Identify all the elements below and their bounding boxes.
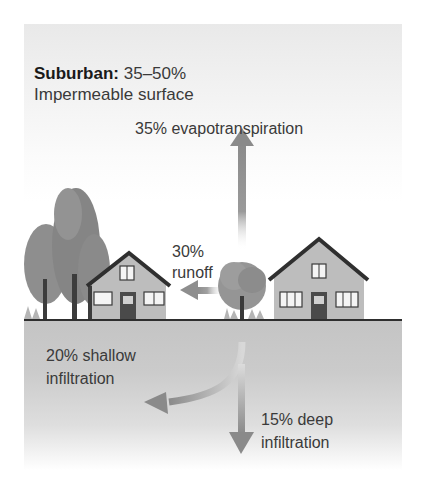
- tree-middle-icon: [218, 262, 266, 319]
- runoff-label: runoff: [172, 263, 213, 282]
- runoff-percent: 30%: [172, 242, 204, 261]
- ground-line: [24, 319, 402, 321]
- evapotranspiration-label: 35% evapotranspiration: [135, 119, 303, 138]
- title-bold: Suburban:: [34, 64, 119, 83]
- deep-infiltration-label: infiltration: [261, 433, 329, 452]
- evapotranspiration-arrow-icon: [230, 128, 254, 250]
- diagram-title: Suburban: 35–50%: [34, 64, 186, 83]
- shallow-infiltration-percent: 20% shallow: [46, 346, 136, 365]
- title-value: 35–50%: [124, 64, 186, 83]
- diagram-subtitle: Impermeable surface: [34, 85, 194, 104]
- deep-infiltration-percent: 15% deep: [261, 410, 333, 429]
- runoff-arrow-icon: [180, 280, 224, 300]
- water-cycle-diagram: Suburban: 35–50% Impermeable surface 35%…: [24, 24, 402, 470]
- house-right-icon: [269, 239, 368, 319]
- shallow-infiltration-arrow-icon: [144, 342, 242, 414]
- shallow-infiltration-label: infiltration: [46, 369, 114, 388]
